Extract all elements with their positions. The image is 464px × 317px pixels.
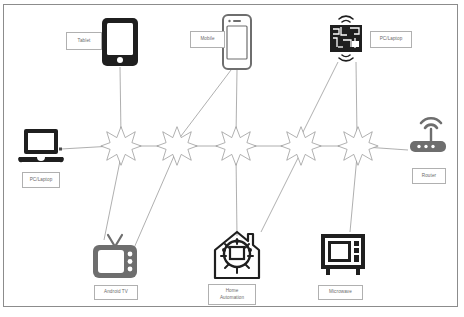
- label-router: Router: [412, 168, 446, 184]
- laptop-icon: [18, 129, 64, 162]
- starburst-shape: [338, 127, 378, 166]
- label-tablet: Tablet: [66, 32, 102, 50]
- label-pc-left: PC/Laptop: [22, 172, 60, 188]
- starburst-shape: [216, 127, 256, 166]
- label-router-text: Router: [422, 173, 436, 179]
- starburst-shape: [101, 127, 141, 166]
- router-node[interactable]: [406, 115, 450, 161]
- label-microwave-text: Microwave: [329, 289, 352, 295]
- label-tablet-text: Tablet: [78, 38, 91, 44]
- router-led: [431, 145, 434, 148]
- wireless-node-3[interactable]: [215, 125, 257, 171]
- wifi-waves-top-icon: [339, 16, 353, 22]
- microwave-icon: [321, 234, 365, 275]
- label-pc-left-text: PC/Laptop: [30, 177, 53, 183]
- label-mobile-text: Mobile: [200, 36, 214, 42]
- label-home-automation: Home Automation: [208, 284, 256, 305]
- front-camera: [228, 20, 230, 22]
- label-pc-top: PC/Laptop: [370, 31, 412, 48]
- label-home-automation-line2: Automation: [220, 295, 244, 301]
- starburst-shape: [281, 127, 321, 166]
- router-icon: [410, 118, 446, 152]
- pc-left-node[interactable]: [17, 127, 65, 171]
- tablet-node[interactable]: [100, 16, 140, 72]
- tv-knob: [128, 259, 133, 264]
- wifi-waves-bottom-icon: [339, 55, 353, 61]
- starburst-shape: [157, 127, 197, 166]
- tablet-home-button: [117, 57, 123, 63]
- label-pc-top-text: PC/Laptop: [380, 36, 403, 42]
- wireless-node-5[interactable]: [337, 125, 379, 171]
- tv-knob: [128, 252, 133, 257]
- router-led: [424, 145, 427, 148]
- television-icon: [93, 235, 137, 278]
- android-tv-node[interactable]: [89, 233, 141, 285]
- speaker-slot: [233, 20, 241, 22]
- router-led: [417, 145, 420, 148]
- wireless-node-2[interactable]: [156, 125, 198, 171]
- label-android-tv: Android TV: [94, 285, 138, 300]
- mobile-node[interactable]: [221, 13, 253, 75]
- network-diagram-canvas: Tablet Mobile: [0, 0, 464, 317]
- home-automation-node[interactable]: [211, 228, 263, 288]
- label-microwave: Microwave: [318, 285, 363, 300]
- microwave-node[interactable]: [318, 231, 368, 285]
- label-android-tv-text: Android TV: [104, 289, 128, 295]
- label-mobile: Mobile: [190, 31, 225, 48]
- wireless-node-4[interactable]: [280, 125, 322, 171]
- wireless-node-1[interactable]: [100, 125, 142, 171]
- pc-top-node[interactable]: [322, 14, 370, 68]
- tv-knob: [128, 267, 133, 272]
